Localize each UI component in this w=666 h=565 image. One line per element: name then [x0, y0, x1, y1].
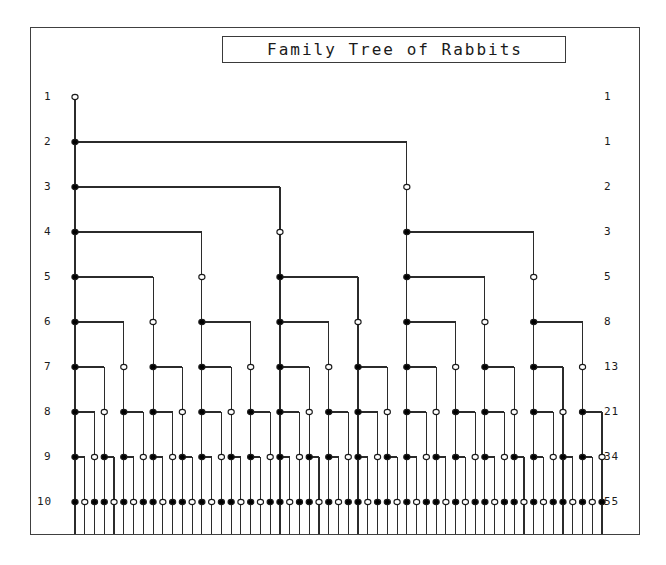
- right-axis-tick-label: 55: [604, 495, 619, 508]
- tree-node-mature: [453, 454, 459, 459]
- tree-node-immature: [326, 364, 332, 369]
- tree-node-mature: [199, 319, 205, 324]
- tree-node-mature: [199, 364, 205, 369]
- tree-node-immature: [540, 499, 546, 504]
- tree-node-mature: [72, 274, 78, 279]
- tree-node-mature: [355, 409, 361, 414]
- tree-node-mature: [199, 409, 205, 414]
- tree-node-mature: [326, 409, 332, 414]
- tree-node-mature: [150, 499, 156, 504]
- tree-node-immature: [199, 274, 205, 279]
- tree-node-mature: [404, 454, 410, 459]
- page-title: Family Tree of Rabbits: [265, 40, 523, 59]
- tree-node-immature: [511, 409, 517, 414]
- tree-node-immature: [277, 229, 283, 234]
- tree-node-immature: [345, 454, 351, 459]
- tree-node-immature: [130, 499, 136, 504]
- tree-node-mature: [72, 184, 78, 189]
- tree-node-immature: [248, 364, 254, 369]
- tree-node-mature: [472, 499, 478, 504]
- tree-node-immature: [101, 409, 107, 414]
- tree-node-mature: [326, 454, 332, 459]
- tree-node-mature: [404, 499, 410, 504]
- tree-node-mature: [423, 499, 429, 504]
- tree-node-immature: [218, 454, 224, 459]
- tree-node-mature: [101, 454, 107, 459]
- tree-node-mature: [550, 499, 556, 504]
- tree-node-mature: [150, 454, 156, 459]
- tree-node-mature: [72, 499, 78, 504]
- tree-node-mature: [433, 454, 439, 459]
- tree-node-mature: [277, 274, 283, 279]
- tree-node-immature: [384, 409, 390, 414]
- tree-node-immature: [82, 499, 88, 504]
- tree-node-mature: [404, 319, 410, 324]
- tree-node-mature: [404, 274, 410, 279]
- tree-node-mature: [453, 409, 459, 414]
- tree-node-immature: [150, 319, 156, 324]
- left-axis-tick-label: 8: [44, 405, 52, 418]
- tree-node-immature: [579, 364, 585, 369]
- tree-node-immature: [287, 499, 293, 504]
- tree-edges: [75, 97, 602, 534]
- tree-node-immature: [179, 409, 185, 414]
- tree-node-immature: [472, 454, 478, 459]
- left-axis-tick-label: 1: [44, 90, 52, 103]
- tree-node-immature: [72, 94, 78, 99]
- tree-node-immature: [111, 499, 117, 504]
- tree-node-immature: [316, 499, 322, 504]
- tree-node-immature: [306, 409, 312, 414]
- tree-node-mature: [384, 499, 390, 504]
- tree-node-immature: [423, 454, 429, 459]
- tree-node-immature: [453, 364, 459, 369]
- tree-node-mature: [72, 454, 78, 459]
- tree-node-mature: [277, 364, 283, 369]
- tree-node-immature: [121, 364, 127, 369]
- tree-node-immature: [170, 454, 176, 459]
- tree-node-immature: [433, 409, 439, 414]
- tree-node-mature: [277, 319, 283, 324]
- tree-node-mature: [579, 499, 585, 504]
- left-axis-tick-label: 6: [44, 315, 52, 328]
- tree-node-mature: [355, 454, 361, 459]
- tree-node-immature: [257, 499, 263, 504]
- tree-node-immature: [374, 454, 380, 459]
- tree-node-immature: [570, 499, 576, 504]
- tree-node-mature: [404, 229, 410, 234]
- right-axis-tick-label: 13: [604, 360, 619, 373]
- tree-node-immature: [404, 184, 410, 189]
- tree-node-mature: [560, 499, 566, 504]
- tree-node-mature: [277, 499, 283, 504]
- tree-node-mature: [511, 499, 517, 504]
- tree-node-mature: [199, 499, 205, 504]
- right-axis-tick-label: 21: [604, 405, 619, 418]
- tree-node-mature: [326, 499, 332, 504]
- tree-node-mature: [560, 454, 566, 459]
- tree-node-mature: [579, 409, 585, 414]
- right-axis-tick-label: 1: [604, 90, 612, 103]
- tree-node-immature: [414, 499, 420, 504]
- tree-node-mature: [72, 364, 78, 369]
- tree-nodes: [72, 94, 605, 504]
- tree-node-mature: [433, 499, 439, 504]
- tree-node-immature: [560, 409, 566, 414]
- tree-node-immature: [492, 499, 498, 504]
- tree-node-mature: [179, 499, 185, 504]
- tree-node-mature: [228, 454, 234, 459]
- tree-node-mature: [72, 319, 78, 324]
- tree-node-immature: [160, 499, 166, 504]
- tree-node-mature: [384, 454, 390, 459]
- tree-node-mature: [150, 364, 156, 369]
- tree-node-mature: [404, 364, 410, 369]
- tree-node-mature: [306, 454, 312, 459]
- tree-node-mature: [218, 499, 224, 504]
- tree-node-mature: [101, 499, 107, 504]
- left-axis-tick-label: 3: [44, 180, 52, 193]
- chart-title-box: Family Tree of Rabbits: [222, 36, 566, 63]
- tree-node-mature: [248, 499, 254, 504]
- right-axis-tick-label: 8: [604, 315, 612, 328]
- tree-node-mature: [355, 364, 361, 369]
- tree-node-immature: [189, 499, 195, 504]
- tree-node-mature: [345, 499, 351, 504]
- tree-node-immature: [394, 499, 400, 504]
